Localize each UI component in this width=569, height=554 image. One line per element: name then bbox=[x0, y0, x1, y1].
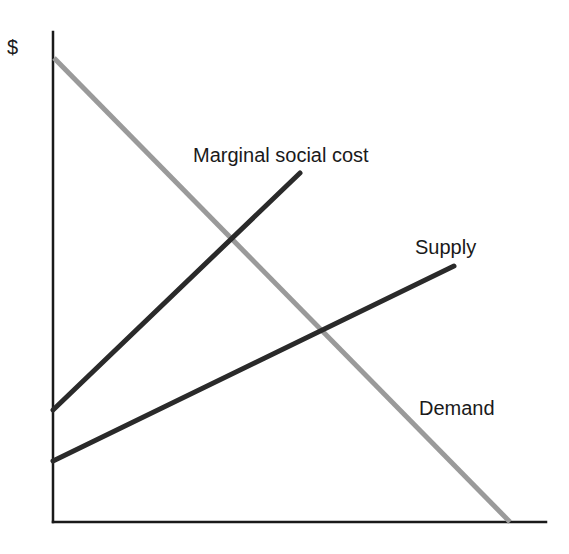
y-axis-label: $ bbox=[7, 37, 18, 57]
marginal-social-cost-curve bbox=[53, 173, 300, 410]
marginal-social-cost-label: Marginal social cost bbox=[193, 145, 369, 165]
demand-curve bbox=[54, 58, 510, 522]
msc-supply-demand-diagram bbox=[0, 0, 569, 554]
supply-label: Supply bbox=[415, 237, 476, 257]
demand-label: Demand bbox=[419, 398, 495, 418]
supply-curve bbox=[53, 266, 454, 461]
